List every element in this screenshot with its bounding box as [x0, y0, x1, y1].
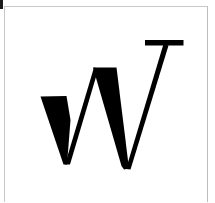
glyph-strokes	[41, 40, 184, 170]
letter-w-glyph	[0, 0, 215, 203]
glyph-container	[0, 0, 215, 203]
thick-stroke-left	[41, 96, 71, 165]
serif-bar-top-right	[145, 40, 184, 46]
screenshot-canvas: W	[0, 0, 215, 203]
hairline-stroke-right	[126, 44, 169, 170]
hairline-stroke-left	[65, 68, 99, 165]
thick-stroke-right	[93, 68, 129, 170]
